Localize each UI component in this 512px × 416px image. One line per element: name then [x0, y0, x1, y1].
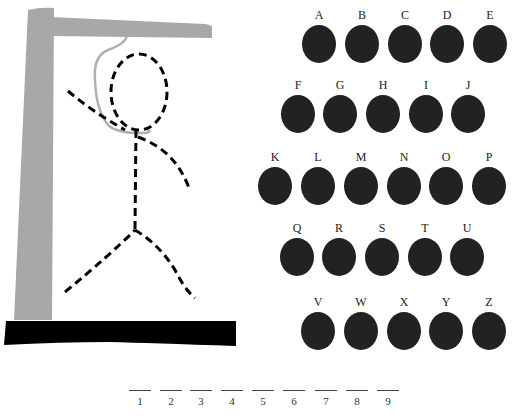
figure-leg-right	[135, 230, 195, 298]
letter-button-p[interactable]: P	[471, 150, 507, 206]
letter-button-u[interactable]: U	[449, 221, 485, 277]
word-slot-7: 7	[315, 390, 337, 414]
letter-button-f[interactable]: F	[280, 78, 316, 134]
letter-button-y[interactable]: Y	[428, 295, 464, 351]
letter-button-j[interactable]: J	[450, 78, 486, 134]
letter-button-n[interactable]: N	[386, 150, 422, 206]
letter-button-q[interactable]: Q	[279, 221, 315, 277]
letter-button-z[interactable]: Z	[471, 295, 507, 351]
letter-button-w[interactable]: W	[343, 295, 379, 351]
word-slot-3: 3	[190, 390, 212, 414]
letter-button-b[interactable]: B	[344, 8, 380, 64]
word-slot-5: 5	[252, 390, 274, 414]
gallows-base	[4, 321, 236, 346]
figure-body	[135, 130, 136, 229]
letter-button-k[interactable]: K	[257, 150, 293, 206]
word-slot-1: 1	[129, 390, 151, 414]
letter-button-r[interactable]: R	[321, 221, 357, 277]
letter-button-i[interactable]: I	[408, 78, 444, 134]
stick-figure	[65, 54, 195, 298]
figure-leg-left	[65, 230, 135, 292]
letter-button-c[interactable]: C	[387, 8, 423, 64]
gallows-drawing	[0, 0, 260, 360]
letter-button-x[interactable]: X	[386, 295, 422, 351]
letter-button-e[interactable]: E	[472, 8, 508, 64]
figure-head	[111, 54, 167, 130]
gallows-post	[14, 8, 54, 320]
letter-button-l[interactable]: L	[300, 150, 336, 206]
letter-button-s[interactable]: S	[364, 221, 400, 277]
gallows-beam	[50, 17, 212, 38]
rope	[95, 36, 150, 133]
letter-button-m[interactable]: M	[343, 150, 379, 206]
word-slot-4: 4	[221, 390, 243, 414]
word-slot-2: 2	[160, 390, 182, 414]
letter-button-d[interactable]: D	[429, 8, 465, 64]
word-slot-9: 9	[377, 390, 399, 414]
letter-button-t[interactable]: T	[407, 221, 443, 277]
letter-button-v[interactable]: V	[300, 295, 336, 351]
letter-button-g[interactable]: G	[322, 78, 358, 134]
word-slot-6: 6	[283, 390, 305, 414]
letter-button-o[interactable]: O	[428, 150, 464, 206]
figure-arm-right	[138, 137, 189, 188]
word-slot-8: 8	[346, 390, 368, 414]
letter-button-a[interactable]: A	[301, 8, 337, 64]
letter-button-h[interactable]: H	[365, 78, 401, 134]
